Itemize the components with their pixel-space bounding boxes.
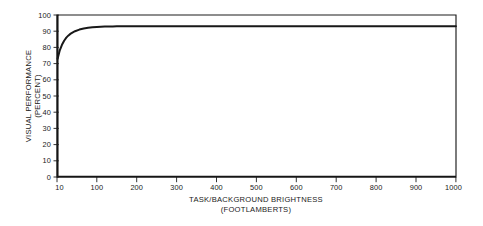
x-tick-label: 10 xyxy=(55,183,63,192)
y-tick-label: 10 xyxy=(43,156,51,165)
x-tick-label: 1000 xyxy=(445,183,462,192)
x-axis-title-line1: TASK/BACKGROUND BRIGHTNESS xyxy=(189,195,323,204)
x-tick-label: 300 xyxy=(170,183,183,192)
y-tick-label: 40 xyxy=(43,108,51,117)
y-axis-title-line2: (PERCENT) xyxy=(33,74,42,118)
y-tick-label: 80 xyxy=(43,43,51,52)
x-tick-label: 600 xyxy=(290,183,303,192)
x-tick-label: 800 xyxy=(370,183,383,192)
x-tick-label: 200 xyxy=(130,183,143,192)
x-tick-label: 500 xyxy=(250,183,263,192)
y-tick-label: 50 xyxy=(43,92,51,101)
y-tick-label: 60 xyxy=(43,75,51,84)
x-axis-title-line2: (FOOTLAMBERTS) xyxy=(221,205,292,214)
y-tick-label: 0 xyxy=(47,173,51,182)
x-tick-label: 400 xyxy=(210,183,223,192)
y-axis-title-line1: VISUAL PERFORMANCE xyxy=(24,50,33,142)
y-tick-label: 90 xyxy=(43,27,51,36)
x-tick-label: 700 xyxy=(330,183,343,192)
visual-performance-chart: 100 90 80 70 60 50 40 30 20 10 0 xyxy=(0,0,483,226)
x-tick-label: 100 xyxy=(90,183,103,192)
chart-figure: 100 90 80 70 60 50 40 30 20 10 0 xyxy=(0,0,483,226)
x-tick-label: 900 xyxy=(410,183,423,192)
y-tick-label: 100 xyxy=(38,11,51,20)
y-tick-label: 30 xyxy=(43,124,51,133)
y-tick-label: 20 xyxy=(43,140,51,149)
y-tick-label: 70 xyxy=(43,59,51,68)
